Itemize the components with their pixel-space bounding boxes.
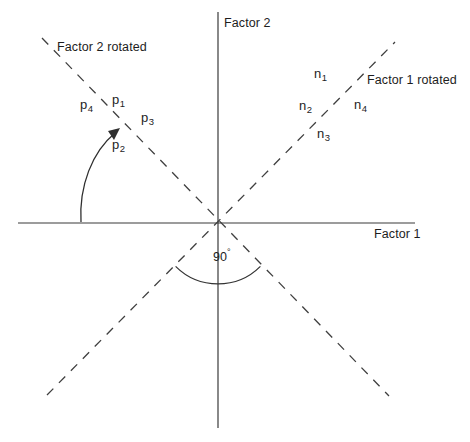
right-angle-label: 90° [213, 249, 231, 264]
label-p2-subscript: 2 [120, 143, 125, 154]
degree-symbol: ° [227, 247, 231, 257]
factor-rotation-diagram: Factor 1 Factor 2 Factor 2 rotated Facto… [0, 0, 470, 442]
label-n4-subscript: 4 [362, 103, 367, 114]
label-p1: p1 [112, 93, 125, 106]
factor-1-rotated-label: Factor 1 rotated [367, 74, 457, 87]
label-p2-text: p [112, 137, 119, 152]
label-n1-subscript: 1 [322, 72, 327, 83]
factor-1-axis-label: Factor 1 [374, 228, 421, 241]
label-n2: n2 [299, 99, 312, 112]
label-n1-text: n [314, 66, 321, 81]
label-p4-text: p [80, 97, 87, 112]
label-p3-subscript: 3 [149, 116, 154, 127]
factor-2-rotated-label: Factor 2 rotated [57, 41, 147, 54]
label-n2-text: n [299, 98, 306, 113]
factor-1-rotated-axis [47, 42, 395, 395]
label-n1: n1 [314, 67, 327, 80]
label-n3: n3 [317, 127, 330, 140]
label-n2-subscript: 2 [307, 104, 312, 115]
label-p4-subscript: 4 [88, 103, 93, 114]
label-n3-subscript: 3 [325, 132, 330, 143]
factor-2-rotated-axis [42, 38, 389, 396]
label-p1-text: p [112, 92, 119, 107]
diagram-canvas [0, 0, 470, 442]
rotation-arrow-curve [81, 133, 115, 222]
label-p1-subscript: 1 [120, 98, 125, 109]
label-p4: p4 [80, 98, 93, 111]
factor-2-axis-label: Factor 2 [224, 17, 271, 30]
label-n3-text: n [317, 126, 324, 141]
label-n4: n4 [354, 98, 367, 111]
label-n4-text: n [354, 97, 361, 112]
right-angle-value: 90 [213, 250, 227, 264]
label-p3: p3 [141, 111, 154, 124]
label-p2: p2 [112, 138, 125, 151]
label-p3-text: p [141, 110, 148, 125]
